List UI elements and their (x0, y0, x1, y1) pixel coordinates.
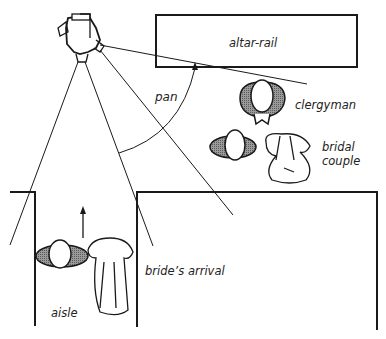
field-line-right (100, 50, 233, 215)
bride-figure (266, 134, 310, 183)
aisle-right-wall (137, 192, 377, 330)
label-aisle: aisle (51, 308, 78, 320)
label-couple: couple (322, 156, 360, 168)
label-brides-arrival: bride’s arrival (145, 266, 225, 278)
clergyman-figure (240, 80, 285, 124)
field-line-left (10, 62, 78, 245)
aisle-groom-figure (36, 240, 88, 268)
label-bridal: bridal (322, 142, 355, 154)
groom-figure (210, 130, 256, 160)
camera-icon (58, 14, 104, 62)
label-altar-rail: altar-rail (229, 38, 277, 50)
pan-arc (119, 68, 195, 153)
diagram-drawing (0, 0, 386, 339)
diagram-canvas: altar-rail pan clergyman bridal couple b… (0, 0, 386, 339)
label-pan: pan (155, 91, 178, 103)
aisle-bride-figure (88, 238, 133, 315)
field-line-center (85, 62, 153, 246)
label-clergyman: clergyman (295, 100, 356, 112)
